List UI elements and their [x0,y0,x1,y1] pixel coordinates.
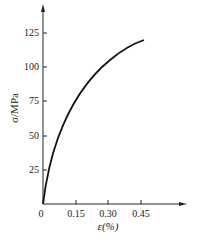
y-ticks [43,33,47,170]
y-tick-label: 100 [24,61,39,72]
y-axis-arrow-icon [41,4,45,12]
origin-label: 0 [39,208,44,219]
y-axis-label: σ/MPa [8,93,20,123]
stress-strain-chart: 25 50 75 100 125 0 0.15 0.30 0.45 ε(%) σ… [0,0,198,243]
x-axis-label: ε(%) [98,220,119,233]
x-tick-label: 0.45 [132,208,150,219]
x-tick-label: 0.30 [99,208,117,219]
y-tick-label: 50 [29,130,39,141]
x-ticks [76,200,141,204]
x-tick-label: 0.15 [67,208,85,219]
y-tick-label: 25 [29,164,39,175]
x-axis-arrow-icon [179,202,187,206]
y-tick-label: 125 [24,27,39,38]
y-tick-label: 75 [29,95,39,106]
stress-strain-curve [43,40,144,204]
